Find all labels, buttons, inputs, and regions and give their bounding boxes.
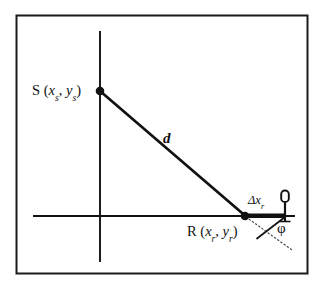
distance-letter: d [163,130,171,146]
receiver-spacing-base: Δx [248,193,261,207]
receiver-letter: R [187,223,197,239]
source-close-paren: ) [76,82,81,98]
label-source-point: S (xs, ys) [32,83,81,100]
source-y-subscript: s [72,92,76,103]
receiver-x-subscript: r [212,233,216,244]
point-marker-R [241,212,250,221]
label-dip-angle-phi: φ [277,221,286,236]
geophone-head-icon [281,191,289,203]
receiver-x-letter: x [205,223,211,239]
source-x-subscript: s [55,92,59,103]
receiver-spacing-subscript: r [261,202,264,211]
figure-root: S (xs, ys) R (xr, yr) d Δxr φ [0,0,324,287]
dip-angle-symbol: φ [277,220,286,236]
source-letter: S [32,82,40,98]
label-receiver-point: R (xr, yr) [187,224,238,241]
receiver-close-paren: ) [233,223,238,239]
diagram-canvas [0,0,324,287]
label-distance-d: d [163,131,171,146]
label-receiver-spacing: Δxr [248,194,264,210]
receiver-y-subscript: r [229,233,233,244]
point-marker-S [96,87,105,96]
